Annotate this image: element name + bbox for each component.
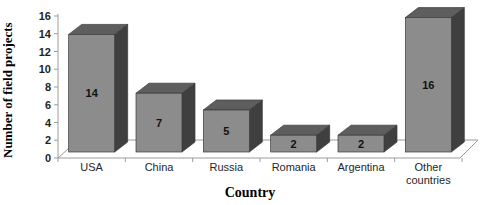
category-labels-group: USAChinaRussiaRomaniaArgentinaOthercount…: [80, 161, 451, 186]
y-tick-label: 4: [45, 117, 52, 129]
bar-value-label: 16: [422, 79, 434, 91]
bar-side-face: [182, 83, 195, 152]
y-axis-ticks: 0246810121416: [39, 10, 58, 164]
y-tick-label: 0: [45, 152, 51, 164]
bar-value-label: 7: [156, 117, 162, 129]
bar-side-face: [451, 8, 464, 152]
y-axis-title: Number of field projects: [0, 22, 15, 158]
y-tick-label: 16: [39, 10, 51, 22]
category-label: countries: [406, 174, 451, 186]
y-tick-label: 14: [39, 28, 52, 40]
x-axis-ticks: [58, 158, 462, 162]
category-label: Russia: [210, 161, 245, 173]
y-tick-label: 8: [45, 81, 51, 93]
y-tick-label: 2: [45, 134, 51, 146]
category-label: China: [145, 161, 175, 173]
category-label: Romania: [272, 161, 317, 173]
bar-argentina: 2: [338, 125, 397, 152]
bar-value-label: 2: [358, 138, 364, 150]
bar-value-label: 14: [86, 87, 99, 99]
bar-china: 7: [136, 83, 195, 152]
bar-romania: 2: [271, 125, 330, 152]
category-label: USA: [80, 161, 103, 173]
y-tick-label: 10: [39, 63, 51, 75]
bar-chart-canvas: Number of field projects Country 0246810…: [0, 0, 480, 205]
y-tick-label: 12: [39, 46, 51, 58]
category-label: Argentina: [337, 161, 385, 173]
bar-side-face: [115, 24, 128, 152]
bars-group: 14752216: [69, 8, 465, 152]
x-axis-title: Country: [225, 185, 276, 200]
bar-value-label: 2: [291, 138, 297, 150]
y-tick-label: 6: [45, 99, 51, 111]
category-label: Other: [415, 161, 443, 173]
bar-usa: 14: [69, 24, 128, 152]
bar-value-label: 5: [223, 125, 229, 137]
bar-other-countries: 16: [405, 8, 464, 152]
chart-figure: Number of field projects Country 0246810…: [0, 0, 480, 205]
bar-russia: 5: [203, 100, 262, 152]
